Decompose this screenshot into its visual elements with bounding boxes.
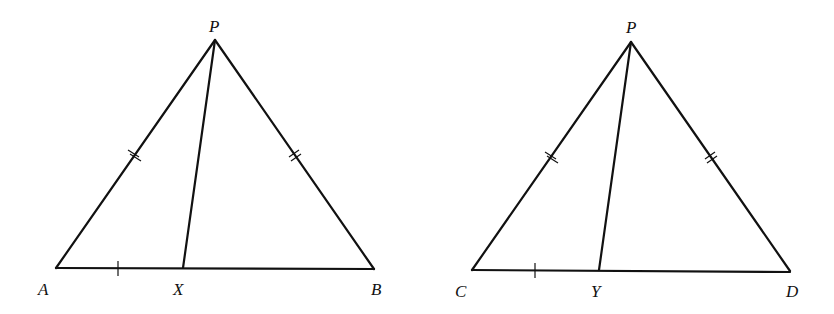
label-Y: Y — [591, 282, 602, 301]
diagram-canvas: P A X B P C Y D — [0, 0, 834, 314]
label-B: B — [371, 280, 382, 299]
label-X: X — [172, 280, 184, 299]
label-P-right: P — [625, 18, 636, 37]
side-PD — [631, 42, 790, 271]
label-A: A — [37, 280, 49, 299]
base-CD — [472, 270, 790, 272]
triangle-right: P C Y D — [455, 18, 799, 301]
cevian-PY — [599, 42, 631, 270]
side-PA — [56, 40, 215, 268]
triangle-left: P A X B — [37, 17, 382, 299]
cevian-PX — [183, 40, 215, 268]
label-P-left: P — [208, 17, 219, 36]
base-AB — [56, 268, 374, 269]
side-PB — [215, 40, 374, 269]
label-D: D — [785, 282, 799, 301]
label-C: C — [455, 282, 467, 301]
